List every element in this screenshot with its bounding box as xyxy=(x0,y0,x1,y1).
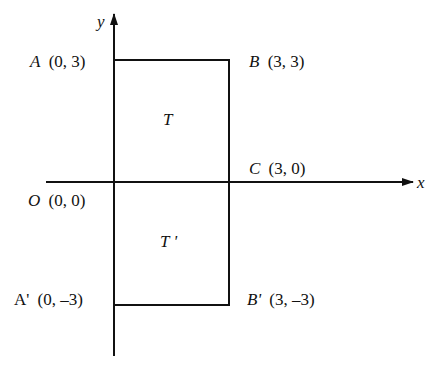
region-t-prime-label: T ' xyxy=(160,232,177,251)
point-c-label: C (3, 0) xyxy=(249,159,305,178)
svg-text:B' (3, –3): B' (3, –3) xyxy=(247,290,315,309)
point-b-coords: (3, 3) xyxy=(268,52,305,71)
svg-text:C (3, 0): C (3, 0) xyxy=(249,159,305,178)
point-a-prime-label: A' (0, –3) xyxy=(14,290,83,309)
point-c-name: C xyxy=(249,159,261,178)
point-a-prime-name: A' xyxy=(14,290,29,309)
point-c-coords: (3, 0) xyxy=(269,159,306,178)
point-o-name: O xyxy=(28,191,40,210)
point-o-coords: (0, 0) xyxy=(49,191,86,210)
svg-text:A' (0, –3): A' (0, –3) xyxy=(14,290,83,309)
svg-text:A (0, 3): A (0, 3) xyxy=(29,52,85,71)
point-o-label: O (0, 0) xyxy=(28,191,85,210)
y-axis-label: y xyxy=(95,12,105,31)
point-b-label: B (3, 3) xyxy=(249,52,304,71)
point-b-prime-label: B' (3, –3) xyxy=(247,290,315,309)
x-axis-label: x xyxy=(416,173,425,192)
svg-text:B (3, 3): B (3, 3) xyxy=(249,52,304,71)
point-b-prime-name: B' xyxy=(247,290,261,309)
point-b-prime-coords: (3, –3) xyxy=(269,290,314,309)
point-a-coords: (0, 3) xyxy=(49,52,86,71)
region-t-label: T xyxy=(163,110,174,129)
coordinate-diagram: x y A (0, 3) B (3, 3) C (3, 0) O (0, 0) … xyxy=(0,0,438,365)
point-b-name: B xyxy=(249,52,260,71)
point-a-name: A xyxy=(29,52,41,71)
point-a-prime-coords: (0, –3) xyxy=(38,290,83,309)
svg-text:O (0, 0): O (0, 0) xyxy=(28,191,85,210)
point-a-label: A (0, 3) xyxy=(29,52,85,71)
